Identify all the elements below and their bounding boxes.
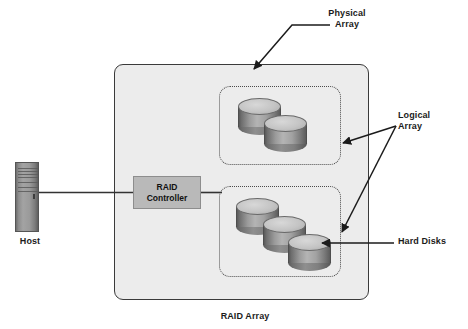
- hard-disks-label: Hard Disks: [398, 236, 466, 247]
- connector-lines: [0, 0, 468, 329]
- diagram-canvas: RAID Controller Physical Array Logical A…: [0, 0, 468, 329]
- host-label: Host: [7, 236, 53, 247]
- logical-array-label: Logical Array: [398, 110, 464, 132]
- leader-logical-array-2: [342, 126, 396, 232]
- leader-physical-array: [254, 25, 330, 69]
- raid-array-label: RAID Array: [180, 311, 310, 322]
- physical-array-label: Physical Array: [312, 8, 382, 30]
